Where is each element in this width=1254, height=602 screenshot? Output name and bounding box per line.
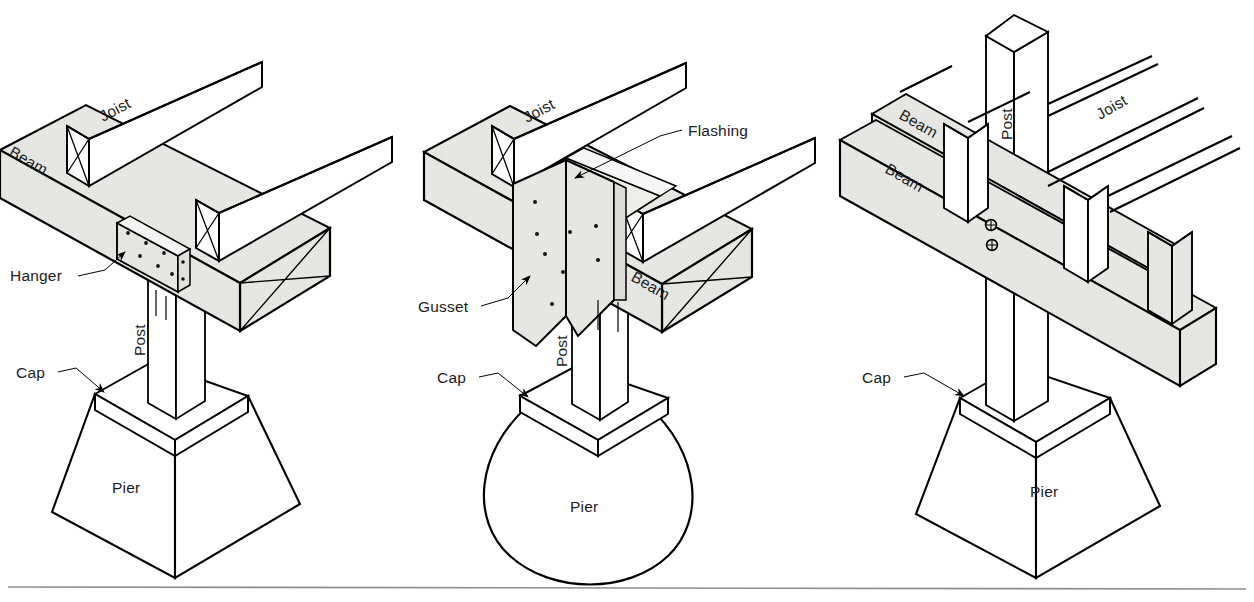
joist-3-block-left <box>944 124 988 222</box>
joist-3-block-far <box>1148 232 1192 324</box>
label-post-3: Post <box>998 108 1015 140</box>
label-hanger-1: Hanger <box>10 267 62 284</box>
label-cap-1: Cap <box>16 364 45 381</box>
joist-3-block-right <box>1064 186 1108 282</box>
label-cap-3: Cap <box>862 369 891 386</box>
label-cap-2: Cap <box>437 369 466 386</box>
figure-post-beam-details: Joist Beam Post Hanger Cap Pier <box>0 0 1254 602</box>
label-gusset: Gusset <box>418 298 469 315</box>
label-post-2: Post <box>553 335 570 367</box>
label-pier-1: Pier <box>112 479 140 496</box>
label-pier-3: Pier <box>1030 483 1058 500</box>
label-pier-2: Pier <box>570 498 598 515</box>
label-post-1: Post <box>131 324 148 356</box>
label-flashing: Flashing <box>688 122 748 139</box>
